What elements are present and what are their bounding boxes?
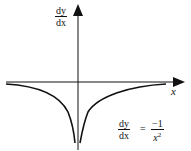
- equation-rhs-numerator: −1: [151, 118, 164, 130]
- equation-rhs-denominator: x2: [151, 130, 164, 143]
- equation-rhs-exponent: 2: [158, 131, 162, 139]
- equation-lhs-numerator: dy: [118, 118, 130, 130]
- equation-lhs-denominator: dx: [118, 130, 130, 141]
- y-label-numerator: dy: [55, 5, 67, 17]
- curve-left: [6, 84, 75, 143]
- equation-lhs: dy dx: [118, 118, 130, 141]
- y-axis-label: dy dx: [55, 5, 67, 28]
- y-label-denominator: dx: [55, 17, 67, 28]
- equation-equals: =: [140, 123, 146, 134]
- equation-rhs: −1 x2: [151, 118, 164, 143]
- x-axis-label: x: [171, 85, 176, 97]
- y-axis-arrow-icon: [73, 4, 83, 16]
